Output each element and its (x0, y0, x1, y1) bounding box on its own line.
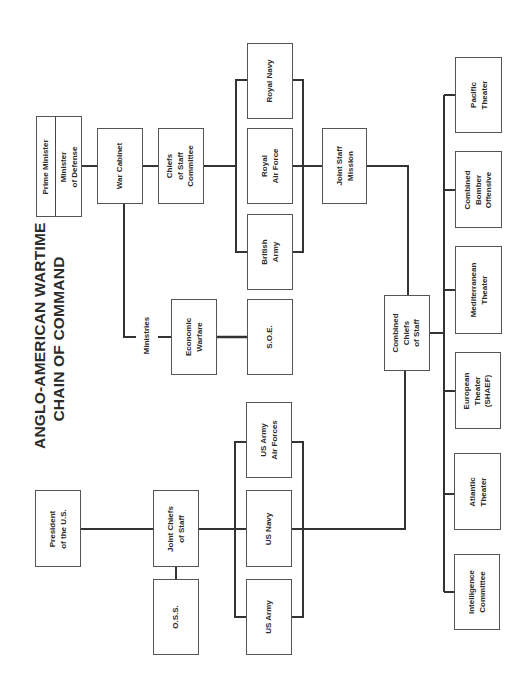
minister-of-defense-label: Minister of Defense (58, 146, 79, 187)
war-cabinet-label: War Cabinet (115, 143, 126, 189)
royal-air-force-label: Royal Air Force (260, 148, 281, 183)
node-chiefs-of-staff-committee: Chiefs of Staff Committee (158, 128, 204, 204)
org-chart: ANGLO-AMERICAN WARTIME CHAIN OF COMMAND … (0, 0, 531, 696)
node-combined-bomber-offensive: Combined Bomber Offensive (455, 151, 502, 228)
node-soe: S.O.E. (247, 299, 293, 375)
node-atlantic-theater: Atlantic Theater (454, 453, 501, 530)
european-theater-label: European Theater (SHAEF) (462, 372, 494, 409)
intelligence-committee-label: Intelligence Committee (467, 570, 488, 614)
node-economic-warfare: Economic Warfare (171, 299, 217, 375)
economic-warfare-label: Economic Warfare (184, 318, 205, 356)
royal-navy-label: Royal Navy (265, 59, 276, 102)
us-army-label: US Army (264, 600, 275, 634)
node-pacific-theater: Pacific Theater (455, 57, 502, 133)
node-british-army: British Army (247, 214, 293, 290)
combined-bomber-offensive-label: Combined Bomber Offensive (463, 170, 495, 209)
chart-title-line1: ANGLO-AMERICAN WARTIME (30, 229, 49, 449)
chart-title-line2: CHAIN OF COMMAND (49, 229, 68, 449)
prime-minister-label: Prime Minister (41, 139, 52, 194)
president-label: President of the U.S. (48, 509, 69, 549)
node-oss: O.S.S. (153, 579, 199, 655)
us-army-air-forces-label: US Army Air Forces (259, 420, 280, 460)
node-prime-minister-defense: Prime Minister Minister of Defense (36, 116, 82, 217)
node-us-army-air-forces: US Army Air Forces (246, 402, 292, 478)
node-combined-chiefs-of-staff: Combined Chiefs of Staff (384, 295, 430, 371)
node-joint-chiefs-of-staff: Joint Chiefs of Staff (153, 490, 199, 567)
node-us-army: US Army (246, 579, 292, 655)
us-navy-label: US Navy (264, 512, 275, 544)
soe-label: S.O.E. (265, 325, 276, 349)
atlantic-theater-label: Atlantic Theater (467, 477, 488, 506)
pacific-theater-label: Pacific Theater (468, 81, 489, 110)
joint-chiefs-of-staff-label: Joint Chiefs of Staff (166, 506, 187, 552)
node-joint-staff-mission: Joint Staff Mission (322, 128, 367, 204)
node-royal-air-force: Royal Air Force (247, 128, 293, 204)
british-army-label: British Army (260, 239, 281, 264)
node-war-cabinet: War Cabinet (97, 128, 143, 204)
mediterranean-theater-label: Mediterranean Theater (468, 263, 489, 318)
chart-title: ANGLO-AMERICAN WARTIME CHAIN OF COMMAND (30, 229, 70, 449)
node-president: President of the U.S. (35, 490, 81, 567)
combined-chiefs-of-staff-label: Combined Chiefs of Staff (391, 313, 423, 352)
node-intelligence-committee: Intelligence Committee (454, 554, 500, 630)
ministries-label: Ministries (142, 315, 151, 356)
joint-staff-mission-label: Joint Staff Mission (334, 146, 355, 185)
node-mediterranean-theater: Mediterranean Theater (455, 246, 502, 334)
node-us-navy: US Navy (246, 490, 292, 567)
node-royal-navy: Royal Navy (247, 43, 293, 119)
chiefs-of-staff-committee-label: Chiefs of Staff Committee (165, 145, 197, 186)
oss-label: O.S.S. (171, 605, 182, 629)
node-european-theater: European Theater (SHAEF) (455, 352, 501, 429)
